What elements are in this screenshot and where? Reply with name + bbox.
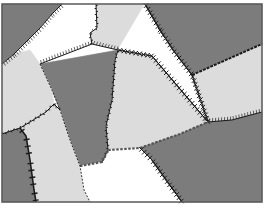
region-partition-figure	[0, 0, 268, 214]
regions-layer	[2, 4, 262, 202]
